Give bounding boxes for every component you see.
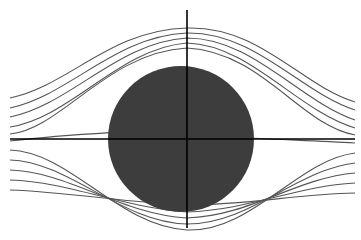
flow-diagram [0,0,361,240]
